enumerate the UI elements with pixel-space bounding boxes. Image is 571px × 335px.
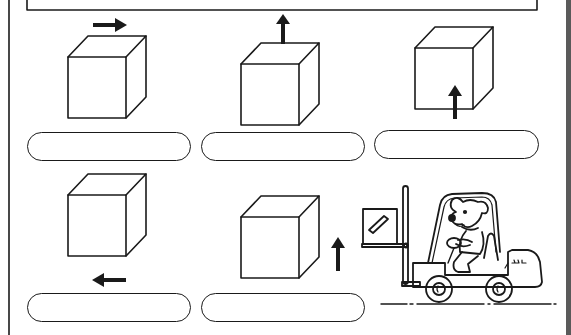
cube-icon xyxy=(241,196,319,278)
answer-field-5[interactable] xyxy=(201,293,365,322)
title-box xyxy=(27,0,537,10)
answer-field-2[interactable] xyxy=(201,132,365,161)
cube-icon xyxy=(241,43,319,125)
worksheet-drawing xyxy=(0,0,571,335)
arrow-up-icon xyxy=(331,237,345,271)
arrow-up-icon xyxy=(448,85,462,119)
cube-icon xyxy=(68,174,146,256)
answer-field-4[interactable] xyxy=(27,293,191,322)
dog-forklift-illustration xyxy=(362,186,556,304)
answer-field-3[interactable] xyxy=(374,130,539,159)
arrow-right-icon xyxy=(93,18,127,32)
page-right-edge xyxy=(566,0,571,335)
arrow-up-icon xyxy=(276,14,290,44)
cube-icon xyxy=(68,36,146,118)
worksheet-page: Cartoon dog driving a forklift carrying … xyxy=(0,0,571,335)
answer-field-1[interactable] xyxy=(27,132,191,161)
arrow-left-icon xyxy=(92,273,126,287)
